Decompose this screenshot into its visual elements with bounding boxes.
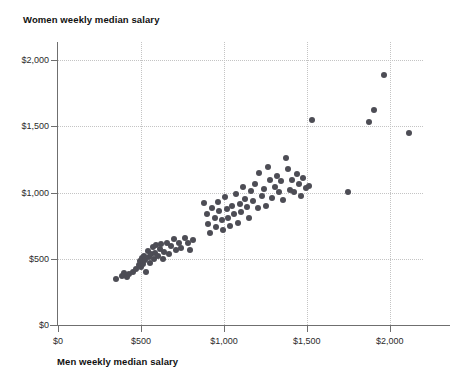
y-axis-tick-label: $1,500	[21, 121, 49, 131]
gridline-horizontal	[58, 193, 423, 194]
data-point	[269, 195, 275, 201]
data-point	[231, 211, 237, 217]
y-axis-tick-labels: $0$500$1,000$1,500$2,000	[0, 47, 49, 325]
data-point	[160, 256, 166, 262]
data-point	[166, 251, 172, 257]
x-axis-tick	[224, 325, 225, 332]
data-point	[248, 188, 254, 194]
data-point	[294, 171, 300, 177]
data-point	[267, 177, 273, 183]
gridline-vertical	[390, 42, 391, 325]
data-point	[201, 200, 207, 206]
gridline-vertical	[224, 42, 225, 325]
y-axis-tick	[51, 60, 58, 61]
y-axis-tick-label: $1,000	[21, 188, 49, 198]
data-point	[345, 189, 351, 195]
data-point	[296, 181, 302, 187]
data-point	[207, 230, 213, 236]
data-point	[229, 203, 235, 209]
data-point	[187, 247, 193, 253]
x-axis-tick	[141, 325, 142, 332]
data-point	[222, 194, 228, 200]
data-point	[280, 197, 286, 203]
data-point	[143, 269, 149, 275]
data-point	[309, 117, 315, 123]
data-point	[178, 245, 184, 251]
plot-area	[58, 47, 423, 325]
x-axis-tick-label: $2,000	[376, 336, 404, 346]
data-point	[205, 221, 211, 227]
data-point	[215, 199, 221, 205]
x-axis-tick	[307, 325, 308, 332]
y-axis-tick	[51, 325, 58, 326]
data-point	[220, 227, 226, 233]
y-axis-tick	[51, 259, 58, 260]
data-point	[255, 205, 261, 211]
x-axis-tick-label: $0	[53, 336, 63, 346]
data-point	[291, 189, 297, 195]
data-point	[283, 155, 289, 161]
data-point	[256, 170, 262, 176]
y-axis-tick-label: $0	[39, 320, 49, 330]
data-point	[240, 184, 246, 190]
y-axis-tick	[51, 126, 58, 127]
data-point	[381, 72, 387, 78]
data-point	[263, 203, 269, 209]
data-point	[213, 224, 219, 230]
data-point	[371, 107, 377, 113]
data-point	[216, 208, 222, 214]
y-axis-tick-label: $2,000	[21, 55, 49, 65]
data-point	[289, 177, 295, 183]
data-point	[237, 201, 243, 207]
data-point	[204, 211, 210, 217]
data-point	[219, 217, 225, 223]
gridline-horizontal	[58, 60, 423, 61]
data-point	[235, 220, 241, 226]
data-point	[242, 196, 248, 202]
x-axis-tick-label: $500	[131, 336, 151, 346]
data-point	[252, 181, 258, 187]
data-point	[244, 204, 250, 210]
data-point	[238, 209, 244, 215]
x-axis-title: Men weekly median salary	[57, 356, 178, 367]
x-axis-tick-label: $1,500	[293, 336, 321, 346]
x-axis-tick-label: $1,000	[210, 336, 238, 346]
x-axis-tick	[58, 325, 59, 332]
data-point	[261, 186, 267, 192]
data-point	[300, 175, 306, 181]
data-point	[306, 183, 312, 189]
data-point	[246, 215, 252, 221]
x-axis-tick-labels: $0$500$1,000$1,500$2,000	[58, 325, 423, 349]
data-point	[190, 237, 196, 243]
data-point	[298, 193, 304, 199]
data-point	[278, 178, 284, 184]
y-axis-tick	[51, 193, 58, 194]
data-point	[209, 205, 215, 211]
x-axis-tick	[390, 325, 391, 332]
scatter-chart-figure: Women weekly median salary $0$500$1,000$…	[0, 0, 469, 377]
gridline-horizontal	[58, 259, 423, 260]
data-point	[227, 223, 233, 229]
data-point	[265, 164, 271, 170]
gridline-horizontal	[58, 126, 423, 127]
data-point	[212, 215, 218, 221]
data-point	[276, 189, 282, 195]
data-point	[259, 193, 265, 199]
data-point	[366, 119, 372, 125]
data-point	[285, 166, 291, 172]
y-axis-title: Women weekly median salary	[23, 14, 160, 25]
data-point	[406, 130, 412, 136]
gridline-vertical	[141, 42, 142, 325]
data-point	[250, 198, 256, 204]
data-point	[233, 191, 239, 197]
y-axis-tick-label: $500	[29, 254, 49, 264]
